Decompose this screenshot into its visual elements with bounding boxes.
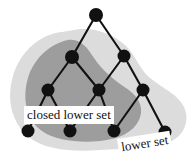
node-bottom-3 [108,125,121,138]
node-bottom-2 [64,125,77,138]
node-top [89,8,103,22]
node-level2-middle [93,84,106,97]
node-level1-left [65,50,79,64]
node-level2-right [137,84,150,97]
poset-diagram-figure: closed lower set lower set [0,0,192,164]
closed-lower-set-label: closed lower set [24,106,114,124]
node-level2-left [42,84,55,97]
node-bottom-1 [22,125,35,138]
node-level1-right [118,50,131,63]
